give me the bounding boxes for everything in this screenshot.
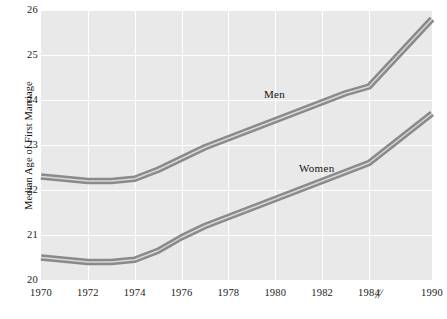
series-label-men: Men (264, 88, 285, 100)
series-label-women: Women (299, 162, 334, 174)
